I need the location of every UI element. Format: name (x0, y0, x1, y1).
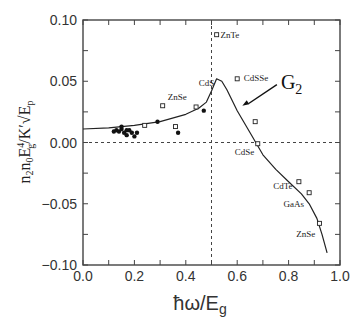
filled-circle-point (202, 108, 206, 112)
filled-circle-point (135, 131, 139, 135)
axis-ticks: 0.00.20.40.60.81.00.100.050.00−0.05−0.10 (42, 12, 350, 284)
material-label: ZnTe (220, 30, 239, 40)
y-tick-label: −0.05 (42, 196, 78, 212)
open-square-point (235, 77, 239, 81)
annotations: ZnTeCdSCdSSeZnSeCdSeCdTeGaAsZnSeG2 (168, 30, 316, 238)
g2-curve-path (83, 79, 327, 253)
open-square-point (215, 33, 219, 37)
x-tick-label: 0.6 (227, 268, 247, 284)
open-square-point (143, 123, 147, 127)
filled-circle-point (155, 119, 159, 123)
chart: 0.00.20.40.60.81.00.100.050.00−0.05−0.10… (0, 0, 364, 323)
g2-label: G2 (281, 71, 302, 97)
arrow-head-icon (242, 100, 249, 105)
y-tick-label: −0.10 (42, 257, 78, 273)
open-square-point (307, 191, 311, 195)
filled-circle-point (124, 133, 128, 137)
y-tick-label: 0.05 (50, 73, 77, 89)
y-axis-title: n2n0E4g/K′√Ep (15, 101, 36, 184)
material-label: CdS (199, 78, 215, 88)
material-label: ZnSe (296, 229, 315, 239)
g2-arrow-line (248, 85, 277, 104)
open-square-point (317, 221, 321, 225)
material-label: CdTe (273, 181, 292, 191)
material-label: CdSe (235, 147, 255, 157)
filled-circle-point (130, 131, 134, 135)
open-square-point (297, 180, 301, 184)
open-square-point (253, 120, 257, 124)
open-square-point (161, 104, 165, 108)
filled-circle-point (176, 131, 180, 135)
g2-curve (83, 79, 327, 253)
open-square-point (256, 142, 260, 146)
material-label: ZnSe (168, 92, 187, 102)
x-tick-label: 0.2 (125, 268, 145, 284)
x-tick-label: 1.0 (330, 268, 350, 284)
filled-circle-point (119, 124, 123, 128)
data-points (112, 33, 322, 226)
y-tick-label: 0.00 (50, 135, 77, 151)
open-square-point (174, 125, 178, 129)
x-tick-label: 0.4 (176, 268, 196, 284)
filled-circle-point (132, 134, 136, 138)
open-square-point (194, 105, 198, 109)
material-label: CdSSe (244, 73, 269, 83)
x-axis-title: ħω/Eg (173, 292, 226, 317)
y-tick-label: 0.10 (50, 12, 77, 28)
x-tick-label: 0.8 (279, 268, 299, 284)
material-label: GaAs (283, 199, 304, 209)
